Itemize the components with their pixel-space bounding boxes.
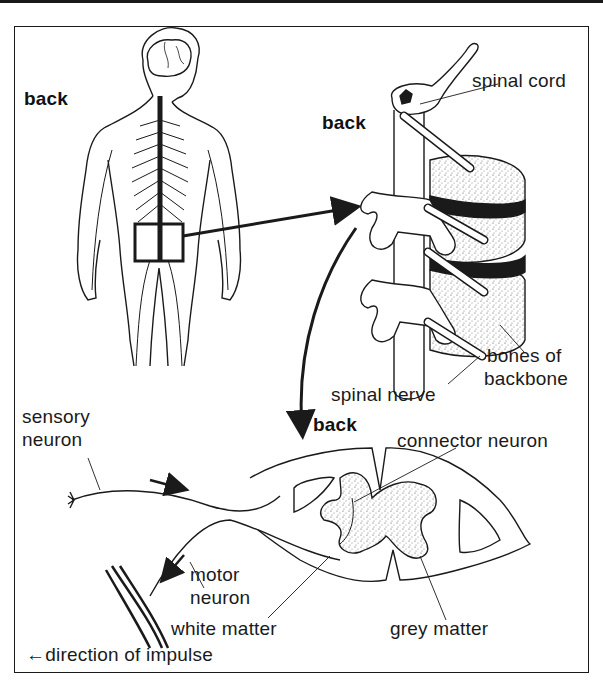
legend-text: direction of impulse (45, 644, 213, 665)
brain-icon (147, 40, 191, 77)
cross-section-orientation-label: back (313, 414, 357, 435)
label-sensory-line1: sensory (22, 406, 90, 427)
diagram-artwork (0, 0, 603, 682)
label-white-matter: white matter (171, 618, 277, 639)
zoom-arrow-right (183, 208, 350, 236)
label-bones-line1: bones of (487, 345, 562, 366)
impulse-arrow-sensory (150, 480, 180, 488)
label-spinal-nerve: spinal nerve (331, 384, 436, 405)
label-grey-matter: grey matter (390, 618, 488, 639)
body-orientation-label: back (24, 88, 68, 109)
left-arrow-icon: ← (26, 644, 45, 665)
label-sensory-line2: neuron (22, 429, 82, 450)
vertebrae-orientation-label: back (322, 112, 366, 133)
label-spinal-cord: spinal cord (472, 70, 566, 91)
label-motor-line1: motor (190, 564, 240, 585)
label-bones-line2: backbone (484, 368, 568, 389)
label-motor-line2: neuron (190, 587, 250, 608)
legend-direction-of-impulse: ←direction of impulse (26, 644, 213, 665)
label-connector-neuron: connector neuron (397, 430, 548, 451)
